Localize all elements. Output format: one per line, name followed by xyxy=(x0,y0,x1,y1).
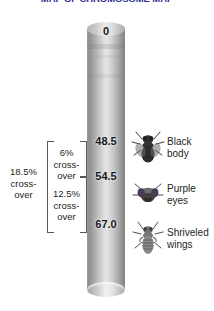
fly-black-body-icon xyxy=(131,130,165,166)
crossover-word-2: over xyxy=(0,189,47,201)
trait-label-line-2: wings xyxy=(167,239,214,251)
crossover-percent: 6% xyxy=(53,147,80,159)
map-position-54-5: 54.5 xyxy=(87,170,125,182)
chromosome-bottom-cap xyxy=(87,282,125,297)
crossover-percent: 12.5% xyxy=(53,188,80,200)
crossover-label-6: 6% cross- over xyxy=(53,147,80,182)
figure-title: MAP OF CHROMOSOME MAP xyxy=(0,0,214,4)
trait-label-line-1: Shriveled xyxy=(167,227,214,239)
trait-label-purple-eyes: Purple eyes xyxy=(167,183,214,207)
trait-label-line-2: body xyxy=(167,148,214,160)
trait-label-black-body: Black body xyxy=(167,136,214,160)
trait-label-shriveled-wings: Shriveled wings xyxy=(167,227,214,251)
crossover-bracket-inner-upper xyxy=(80,141,87,178)
fly-shriveled-wings-icon xyxy=(131,221,165,257)
chromosome-body xyxy=(87,29,125,290)
map-position-0: 0 xyxy=(87,25,125,37)
trait-label-line-1: Purple xyxy=(167,183,214,195)
fly-purple-eyes-icon xyxy=(131,178,165,214)
map-position-67-0: 67.0 xyxy=(87,218,125,230)
trait-label-line-2: eyes xyxy=(167,195,214,207)
crossover-word-1: cross- xyxy=(0,178,47,190)
trait-label-line-1: Black xyxy=(167,136,214,148)
crossover-bracket-inner-lower xyxy=(80,176,87,233)
crossover-word-1: cross- xyxy=(53,159,80,171)
crossover-label-18-5: 18.5% cross- over xyxy=(0,166,47,201)
map-position-48-5: 48.5 xyxy=(87,135,125,147)
chromosome-band xyxy=(87,55,125,58)
chromosome-bar xyxy=(87,22,125,297)
crossover-word-1: cross- xyxy=(53,200,80,212)
crossover-label-12-5: 12.5% cross- over xyxy=(53,188,80,223)
chromosome-band xyxy=(87,44,125,49)
chromosome-map-figure: MAP OF CHROMOSOME MAP 0 48.5 54.5 67.0 1… xyxy=(0,0,214,311)
crossover-word-2: over xyxy=(53,170,80,182)
crossover-percent: 18.5% xyxy=(0,166,47,178)
crossover-word-2: over xyxy=(53,211,80,223)
chromosome-band xyxy=(87,74,125,78)
